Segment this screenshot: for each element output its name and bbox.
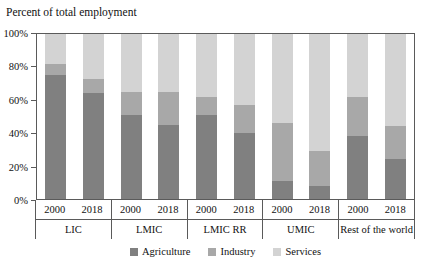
legend-swatch-icon [273,248,281,256]
bar-segment-services[interactable] [234,34,255,105]
x-axis-group: 20002018UMIC [262,200,339,239]
chart-legend: AgricultureIndustryServices [36,246,415,257]
bar-segment-agriculture[interactable] [385,159,406,199]
bar-segment-industry[interactable] [83,79,104,94]
x-axis-group-label: LMIC [112,220,187,239]
bar-segment-industry[interactable] [347,97,368,137]
bar-segment-agriculture[interactable] [309,186,330,199]
bar-segment-services[interactable] [347,34,368,97]
y-axis-tick-label: 40% [9,128,28,139]
legend-swatch-icon [130,248,138,256]
x-axis-group: 20002018LIC [35,200,112,239]
y-axis-tick-label: 0% [14,195,28,206]
stacked-bar[interactable] [234,34,255,199]
y-axis-tick-label: 100% [4,28,29,39]
bar-segment-services[interactable] [385,34,406,126]
bar-group [112,34,187,199]
x-axis-year-row: 20002018 [188,200,263,220]
bar-group [188,34,263,199]
x-axis-group: 20002018Rest of the world [338,200,415,239]
x-axis-year-label: 2000 [112,204,149,215]
bar-group [37,34,112,199]
bar-group [339,34,414,199]
bar-segment-services[interactable] [121,34,142,92]
stacked-bar[interactable] [121,34,142,199]
bar-segment-agriculture[interactable] [347,136,368,199]
bar-segment-services[interactable] [196,34,217,97]
x-axis-group: 20002018LMIC [111,200,188,239]
bar-segment-industry[interactable] [234,105,255,133]
legend-item[interactable]: Services [273,246,321,257]
x-axis-group-label: LIC [36,220,111,239]
bar-segment-agriculture[interactable] [121,115,142,199]
bar-segment-industry[interactable] [272,123,293,181]
x-axis-year-row: 20002018 [263,200,338,220]
y-axis-tick-label: 60% [9,94,28,105]
bar-segment-industry[interactable] [309,151,330,186]
legend-item[interactable]: Industry [208,246,255,257]
y-axis-tick-label: 80% [9,61,28,72]
bar-segment-industry[interactable] [158,92,179,125]
bars-layer [37,34,414,199]
stacked-bar[interactable] [385,34,406,199]
bar-segment-industry[interactable] [385,126,406,159]
x-axis-year-row: 20002018 [339,200,414,220]
x-axis-year-label: 2018 [149,204,186,215]
x-axis-year-label: 2000 [188,204,225,215]
x-axis-group-label: UMIC [263,220,338,239]
stacked-bar[interactable] [196,34,217,199]
bar-segment-services[interactable] [158,34,179,92]
x-axis-year-row: 20002018 [112,200,187,220]
bar-segment-services[interactable] [272,34,293,123]
bar-segment-agriculture[interactable] [83,93,104,199]
employment-share-chart: Percent of total employment 0%20%40%60%8… [0,0,431,267]
stacked-bar[interactable] [83,34,104,199]
x-axis-year-label: 2000 [36,204,73,215]
x-axis-group: 20002018LMIC RR [187,200,264,239]
bar-segment-agriculture[interactable] [45,75,66,199]
stacked-bar[interactable] [347,34,368,199]
x-axis: 20002018LIC20002018LMIC20002018LMIC RR20… [36,200,415,239]
bar-group [263,34,338,199]
plot-area [36,33,415,200]
legend-item[interactable]: Agriculture [130,246,190,257]
legend-label: Agriculture [142,246,190,257]
y-axis: 0%20%40%60%80%100% [0,0,36,267]
legend-label: Industry [220,246,255,257]
stacked-bar[interactable] [158,34,179,199]
x-axis-year-label: 2000 [339,204,376,215]
bar-segment-services[interactable] [309,34,330,151]
bar-segment-industry[interactable] [196,97,217,115]
bar-segment-agriculture[interactable] [272,181,293,199]
bar-segment-services[interactable] [83,34,104,79]
bar-segment-services[interactable] [45,34,66,64]
bar-segment-industry[interactable] [45,64,66,76]
x-axis-group-label: Rest of the world [339,220,414,239]
stacked-bar[interactable] [45,34,66,199]
bar-segment-agriculture[interactable] [196,115,217,199]
x-axis-year-label: 2018 [73,204,110,215]
x-axis-year-label: 2018 [225,204,262,215]
x-axis-year-label: 2000 [263,204,300,215]
y-axis-tick-label: 20% [9,161,28,172]
legend-swatch-icon [208,248,216,256]
x-axis-group-label: LMIC RR [188,220,263,239]
stacked-bar[interactable] [309,34,330,199]
legend-label: Services [285,246,321,257]
bar-segment-agriculture[interactable] [234,133,255,199]
bar-segment-agriculture[interactable] [158,125,179,199]
bar-segment-industry[interactable] [121,92,142,115]
x-axis-year-label: 2018 [377,204,414,215]
x-axis-year-row: 20002018 [36,200,111,220]
x-axis-year-label: 2018 [301,204,338,215]
stacked-bar[interactable] [272,34,293,199]
